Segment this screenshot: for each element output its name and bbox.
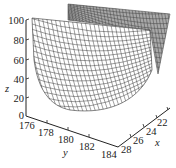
- x-axis-label: x: [154, 137, 160, 148]
- x-tick-label: 24: [146, 126, 157, 137]
- z-axis: 100 80 60 40 20 0 z: [4, 15, 29, 121]
- y-tick-label: 176: [19, 120, 35, 131]
- surface-plot: 100 80 60 40 20 0 z 176 178 180 182 184 …: [0, 0, 176, 168]
- x-axis: 22 24 26 28 x: [118, 107, 170, 155]
- z-tick-label: 100: [8, 15, 24, 26]
- y-tick-label: 182: [79, 141, 95, 152]
- y-axis-label: y: [62, 147, 68, 158]
- x-tick-label: 22: [157, 117, 168, 128]
- y-tick-label: 180: [58, 134, 74, 145]
- x-tick-label: 26: [133, 135, 144, 146]
- z-tick-label: 80: [14, 35, 25, 46]
- x-tick-label: 28: [121, 144, 132, 155]
- z-tick-label: 40: [14, 74, 25, 85]
- y-axis: 176 178 180 182 184 y: [19, 116, 118, 160]
- y-tick-label: 178: [38, 127, 54, 138]
- z-axis-label: z: [4, 83, 9, 94]
- z-tick-label: 60: [14, 55, 25, 66]
- z-tick-label: 20: [14, 93, 25, 104]
- y-tick-label: 184: [101, 149, 118, 160]
